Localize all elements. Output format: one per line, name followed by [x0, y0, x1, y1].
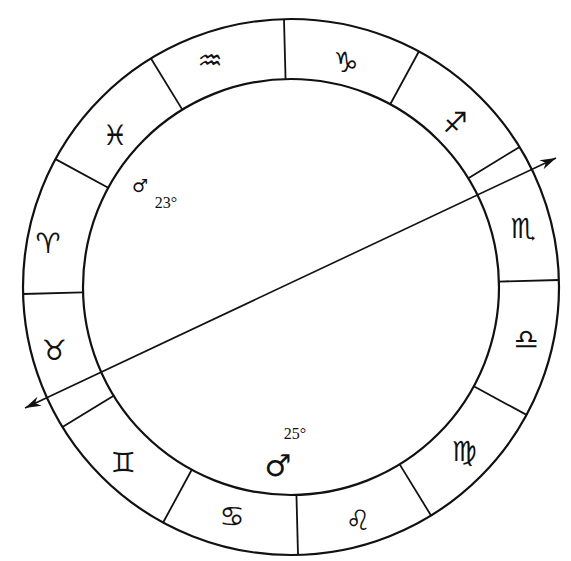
sign-pisces-icon: ♓ — [102, 119, 127, 152]
sign-sagittarius-icon: ♐ — [442, 106, 467, 139]
planet-markers: ♂23°♂25° — [132, 175, 306, 483]
sign-divider — [400, 464, 431, 515]
sign-divider — [499, 280, 559, 282]
sign-divider — [23, 292, 83, 294]
sign-divider — [62, 396, 113, 427]
planet-degree-label: 25° — [284, 425, 306, 442]
sign-scorpio-icon: ♏ — [510, 212, 535, 245]
sign-capricorn-icon: ♑ — [333, 46, 358, 79]
planet-symbol-icon: ♂ — [132, 175, 148, 196]
sign-divider — [151, 58, 182, 109]
sign-cancer-icon: ♋ — [219, 500, 244, 533]
sign-aquarius-icon: ♒ — [197, 44, 222, 77]
sign-taurus-icon: ♉ — [41, 334, 66, 367]
sign-aries-icon: ♈ — [35, 227, 60, 260]
arrow-left-icon — [25, 397, 42, 408]
sign-divider — [55, 159, 108, 188]
planet-mars: ♂25° — [265, 425, 307, 483]
planet-degree-label: 23° — [155, 194, 177, 211]
sign-divider — [474, 386, 527, 415]
sign-divider — [163, 470, 192, 523]
zodiac-wheel-diagram: ♒♑♐♏♎♍♌♋♊♉♈♓ ♂23°♂25° — [0, 0, 571, 561]
sign-divider — [296, 495, 298, 555]
arrow-right-icon — [539, 158, 556, 169]
sign-leo-icon: ♌ — [345, 504, 370, 537]
planet-symbol-icon: ♂ — [265, 448, 292, 483]
sign-divider — [284, 19, 286, 79]
sign-libra-icon: ♎ — [513, 323, 538, 356]
sign-divider — [468, 147, 519, 178]
sign-virgo-icon: ♍ — [451, 435, 476, 468]
planet-uranus-or-mercury-symbol: ♂23° — [132, 175, 177, 211]
sign-divider — [390, 51, 419, 104]
sign-gemini-icon: ♊ — [110, 446, 135, 479]
